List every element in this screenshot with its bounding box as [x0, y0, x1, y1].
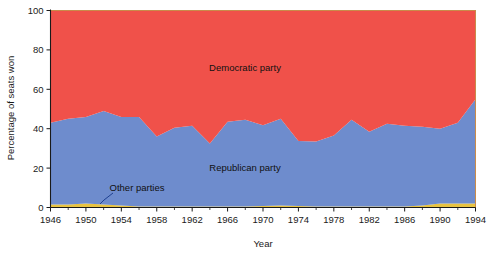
y-tick-label: 60: [33, 84, 44, 95]
y-tick-label: 0: [38, 202, 43, 213]
x-tick-label: 1970: [252, 214, 273, 225]
y-tick-label: 20: [33, 163, 44, 174]
stacked-area-chart: 020406080100 194619501954195819621966197…: [0, 0, 492, 255]
x-tick-label: 1946: [40, 214, 61, 225]
x-tick-label: 1986: [394, 214, 415, 225]
x-tick-label: 1954: [111, 214, 132, 225]
x-tick-label: 1966: [217, 214, 238, 225]
x-tick-label: 1958: [146, 214, 167, 225]
x-tick-label: 1990: [430, 214, 451, 225]
chart-figure: 020406080100 194619501954195819621966197…: [0, 0, 492, 255]
series-label-democratic: Democratic party: [209, 62, 281, 73]
area-series-group: [51, 11, 476, 208]
y-axis-title: Percentage of seats won: [5, 56, 16, 161]
x-axis-title: Year: [253, 238, 272, 249]
series-label-other: Other parties: [110, 182, 165, 193]
y-tick-label: 100: [28, 5, 44, 16]
x-tick-label: 1974: [288, 214, 309, 225]
x-tick-label: 1978: [323, 214, 344, 225]
x-tick-label: 1982: [359, 214, 380, 225]
x-tick-label: 1994: [465, 214, 486, 225]
y-tick-label: 40: [33, 123, 44, 134]
y-tick-label: 80: [33, 44, 44, 55]
x-tick-label: 1950: [75, 214, 96, 225]
x-tick-label: 1962: [182, 214, 203, 225]
series-label-republican: Republican party: [209, 162, 281, 173]
